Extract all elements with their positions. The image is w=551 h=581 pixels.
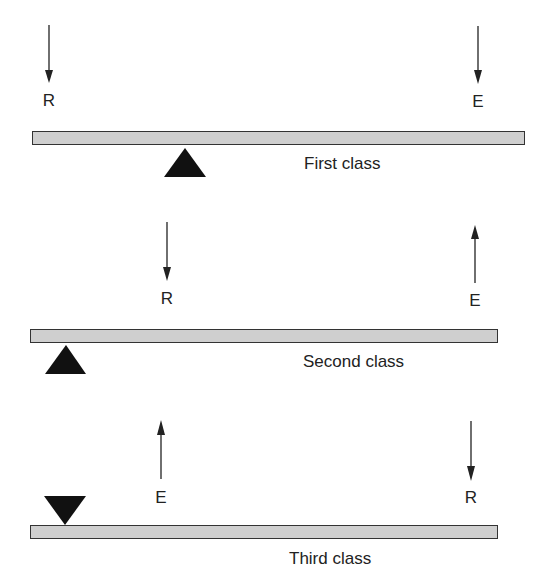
fulcrum-triangle-inverted-icon <box>44 496 86 525</box>
force-label: E <box>151 488 171 508</box>
arrow-up-icon <box>157 420 165 479</box>
arrow-down-icon <box>467 421 475 481</box>
arrow-up-icon <box>471 225 479 283</box>
arrow-down-icon <box>163 222 171 281</box>
force-label: R <box>157 289 177 309</box>
lever-bar <box>30 329 498 343</box>
arrow-down-icon <box>474 26 482 84</box>
force-label: R <box>461 488 481 508</box>
class-label: Third class <box>289 549 371 569</box>
force-label: E <box>468 92 488 112</box>
class-label: First class <box>304 154 381 174</box>
fulcrum-triangle-icon <box>45 345 86 374</box>
lever-bar <box>32 131 525 145</box>
class-label: Second class <box>303 352 404 372</box>
fulcrum-triangle-icon <box>164 148 206 177</box>
force-label: R <box>39 91 59 111</box>
force-label: E <box>465 291 485 311</box>
arrow-down-icon <box>45 25 53 83</box>
lever-bar <box>30 525 498 539</box>
